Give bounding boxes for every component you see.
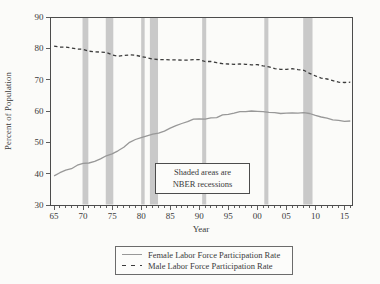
x-tick-label: 85	[166, 211, 176, 221]
x-tick-label: 70	[79, 211, 89, 221]
annotation-line-2: NBER recessions	[156, 178, 249, 190]
recession-band	[303, 18, 312, 205]
y-tick-label: 30	[35, 200, 45, 210]
legend-item-male: Male Labor Force Participation Rate	[122, 260, 287, 271]
chart-canvas: 657075808590950005101530405060708090	[0, 0, 380, 284]
x-axis-title: Year	[51, 224, 351, 234]
x-tick-label: 05	[282, 211, 292, 221]
y-tick-label: 80	[35, 43, 45, 53]
x-tick-label: 00	[253, 211, 263, 221]
y-tick-label: 60	[35, 106, 45, 116]
chart-legend: Female Labor Force Participation Rate Ma…	[115, 246, 293, 275]
y-tick-label: 50	[35, 137, 45, 147]
recession-band	[264, 18, 268, 205]
solid-line-swatch	[122, 254, 142, 256]
recession-band	[106, 18, 114, 205]
recession-band	[83, 18, 89, 205]
recession-annotation-box: Shaded areas are NBER recessions	[155, 163, 250, 194]
x-tick-label: 80	[137, 211, 147, 221]
labor-force-participation-figure: 657075808590950005101530405060708090 Per…	[0, 0, 380, 284]
x-tick-label: 75	[108, 211, 118, 221]
x-tick-label: 15	[340, 211, 350, 221]
x-tick-label: 90	[195, 211, 205, 221]
x-tick-label: 10	[311, 211, 321, 221]
y-axis-title: Percent of Population	[3, 17, 13, 205]
legend-label-male: Male Labor Force Participation Rate	[148, 261, 273, 271]
y-tick-label: 70	[35, 75, 45, 85]
recession-band	[141, 18, 144, 205]
legend-item-female: Female Labor Force Participation Rate	[122, 249, 287, 260]
legend-label-female: Female Labor Force Participation Rate	[148, 250, 280, 260]
x-tick-label: 65	[50, 211, 60, 221]
dashed-line-swatch	[122, 265, 142, 267]
y-tick-label: 90	[35, 12, 45, 22]
y-tick-label: 40	[35, 169, 45, 179]
annotation-line-1: Shaded areas are	[156, 166, 249, 178]
x-tick-label: 95	[224, 211, 234, 221]
